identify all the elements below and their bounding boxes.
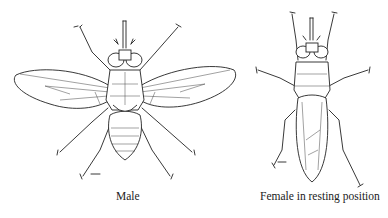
- female-caption: Female in resting position: [260, 190, 380, 202]
- male-caption: Male: [116, 190, 140, 202]
- fly-female-wings-folded-illustration: [240, 0, 388, 218]
- female-figure: Female in resting position: [240, 0, 388, 218]
- fly-male-wings-spread-illustration: [0, 0, 240, 218]
- male-figure: Male: [0, 0, 240, 218]
